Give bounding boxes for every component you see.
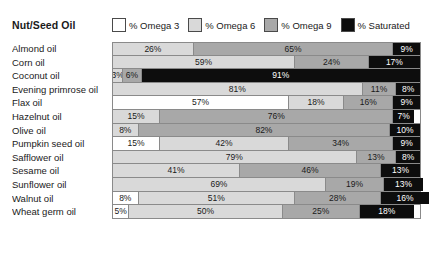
chart-legend: % Omega 3% Omega 6% Omega 9% Saturated	[112, 18, 421, 32]
legend-label: % Saturated	[358, 20, 410, 31]
row-label: Safflower oil	[12, 151, 112, 165]
bar-segment[interactable]: 16%	[343, 96, 392, 109]
legend-item-omega6[interactable]: % Omega 6	[188, 18, 255, 32]
bar-segment[interactable]: 41%	[113, 164, 239, 177]
bar-segment[interactable]: 11%	[362, 83, 396, 96]
stacked-bar: 57%18%16%9%	[112, 96, 421, 110]
bar-segment[interactable]: 50%	[128, 205, 282, 218]
stacked-bar: 41%46%13%	[112, 164, 421, 178]
legend-item-omega9[interactable]: % Omega 9	[264, 18, 331, 32]
bar-segment[interactable]: 18%	[288, 96, 343, 109]
stacked-bar: 3%6%91%	[112, 69, 421, 83]
row-label: Coconut oil	[12, 69, 112, 83]
bar-segment[interactable]: 65%	[193, 43, 393, 55]
bar-segment[interactable]: 51%	[138, 192, 295, 205]
table-row: Almond oil26%65%9%	[12, 42, 421, 56]
bar-segment[interactable]: 91%	[141, 69, 420, 82]
chart-rows: Almond oil26%65%9%Corn oil59%24%17%Cocon…	[12, 42, 421, 219]
bar-segment[interactable]: 3%	[113, 69, 122, 82]
bar-segment[interactable]: 46%	[239, 164, 380, 177]
bar-segment[interactable]: 16%	[380, 192, 429, 205]
bar-segment[interactable]: 42%	[159, 137, 288, 150]
bar-segment[interactable]: 13%	[356, 151, 396, 164]
bar-segment[interactable]: 17%	[368, 56, 420, 69]
bar-segment[interactable]: 57%	[113, 96, 288, 109]
legend-swatch-omega9	[264, 18, 278, 32]
bar-segment[interactable]: 69%	[113, 178, 325, 191]
table-row: Walnut oil8%51%28%16%	[12, 192, 421, 206]
stacked-bar-chart: Nut/Seed Oil % Omega 3% Omega 6% Omega 9…	[0, 0, 431, 266]
row-label: Evening primrose oil	[12, 83, 112, 97]
bar-segment[interactable]: 26%	[113, 43, 193, 55]
bar-segment[interactable]: 8%	[395, 83, 420, 96]
bar-segment[interactable]: 28%	[294, 192, 380, 205]
legend-item-omega3[interactable]: % Omega 3	[112, 18, 179, 32]
bar-segment[interactable]: 19%	[325, 178, 383, 191]
row-label: Hazelnut oil	[12, 110, 112, 124]
stacked-bar: 79%13%8%	[112, 151, 421, 165]
bar-segment[interactable]: 34%	[288, 137, 392, 150]
legend-swatch-omega6	[188, 18, 202, 32]
bar-segment[interactable]: 9%	[392, 96, 420, 109]
bar-segment[interactable]: 13%	[383, 178, 423, 191]
row-label: Corn oil	[12, 56, 112, 70]
legend-swatch-saturated	[341, 18, 355, 32]
table-row: Wheat germ oil5%50%25%18%	[12, 205, 421, 219]
bar-segment[interactable]: 76%	[159, 110, 392, 123]
bar-segment[interactable]: 25%	[282, 205, 359, 218]
stacked-bar: 15%42%34%9%	[112, 137, 421, 151]
bar-segment[interactable]: 18%	[359, 205, 414, 218]
table-row: Evening primrose oil81%11%8%	[12, 83, 421, 97]
table-row: Sunflower oil69%19%13%	[12, 178, 421, 192]
bar-segment[interactable]: 6%	[122, 69, 140, 82]
bar-segment[interactable]: 79%	[113, 151, 356, 164]
table-row: Olive oil8%82%10%	[12, 124, 421, 138]
bar-segment[interactable]: 24%	[294, 56, 368, 69]
stacked-bar: 8%82%10%	[112, 124, 421, 138]
page-title: Nut/Seed Oil	[12, 19, 112, 31]
bar-segment[interactable]: 7%	[392, 110, 413, 123]
bar-segment[interactable]: 13%	[380, 164, 420, 177]
stacked-bar: 8%51%28%16%	[112, 192, 421, 206]
table-row: Safflower oil79%13%8%	[12, 151, 421, 165]
legend-label: % Omega 3	[129, 20, 179, 31]
stacked-bar: 69%19%13%	[112, 178, 421, 192]
table-row: Corn oil59%24%17%	[12, 56, 421, 70]
row-label: Sesame oil	[12, 164, 112, 178]
bar-segment[interactable]: 8%	[113, 192, 138, 205]
bar-segment[interactable]: 9%	[392, 43, 420, 55]
bar-segment[interactable]: 59%	[113, 56, 294, 69]
table-row: Coconut oil3%6%91%	[12, 69, 421, 83]
bar-segment[interactable]: 15%	[113, 137, 159, 150]
bar-segment[interactable]: 81%	[113, 83, 362, 96]
bar-segment[interactable]: 82%	[138, 124, 390, 137]
bar-segment[interactable]: 9%	[392, 137, 420, 150]
bar-segment[interactable]: 10%	[389, 124, 420, 137]
table-row: Flax oil57%18%16%9%	[12, 96, 421, 110]
table-row: Hazelnut oil15%76%7%	[12, 110, 421, 124]
table-row: Sesame oil41%46%13%	[12, 164, 421, 178]
legend-label: % Omega 6	[205, 20, 255, 31]
chart-header: Nut/Seed Oil % Omega 3% Omega 6% Omega 9…	[12, 14, 421, 36]
row-label: Pumpkin seed oil	[12, 137, 112, 151]
legend-swatch-omega3	[112, 18, 126, 32]
table-row: Pumpkin seed oil15%42%34%9%	[12, 137, 421, 151]
stacked-bar: 81%11%8%	[112, 83, 421, 97]
row-label: Flax oil	[12, 96, 112, 110]
stacked-bar: 15%76%7%	[112, 110, 421, 124]
stacked-bar: 5%50%25%18%	[112, 205, 421, 219]
bar-segment[interactable]: 15%	[113, 110, 159, 123]
row-label: Almond oil	[12, 42, 112, 56]
legend-item-saturated[interactable]: % Saturated	[341, 18, 410, 32]
bar-segment[interactable]: 8%	[395, 151, 420, 164]
bar-segment[interactable]: 8%	[113, 124, 138, 137]
stacked-bar: 59%24%17%	[112, 56, 421, 70]
legend-label: % Omega 9	[281, 20, 331, 31]
row-label: Sunflower oil	[12, 178, 112, 192]
row-label: Olive oil	[12, 124, 112, 138]
bar-segment[interactable]: 5%	[113, 205, 128, 218]
row-label: Wheat germ oil	[12, 205, 112, 219]
row-label: Walnut oil	[12, 192, 112, 206]
stacked-bar: 26%65%9%	[112, 42, 421, 56]
